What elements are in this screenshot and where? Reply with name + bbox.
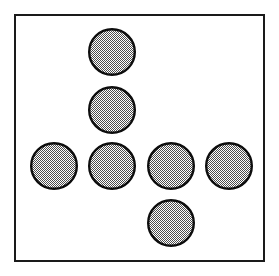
circle-bottom — [148, 200, 194, 246]
figure-container: Seven shaded circles arranged in a cross… — [0, 0, 279, 276]
circle-pattern-figure — [0, 0, 279, 276]
circle-row-center-right — [148, 143, 194, 189]
circle-row-center-left — [89, 143, 135, 189]
circle-row-left — [31, 143, 77, 189]
circle-top — [89, 29, 135, 75]
circle-row-right — [206, 143, 252, 189]
outer-border-rect — [15, 15, 264, 261]
circle-upper-middle — [89, 87, 135, 133]
